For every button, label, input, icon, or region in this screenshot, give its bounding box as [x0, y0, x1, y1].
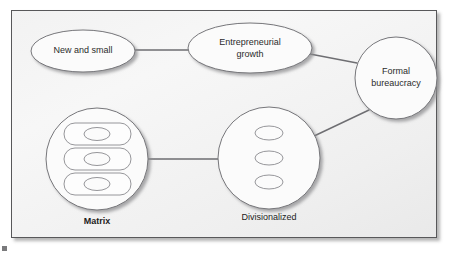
entrepreneurial-growth-ellipse — [188, 23, 312, 73]
connector-entrepreneurial-to-formal — [310, 54, 357, 63]
divisionalized-unit-ellipse-1 — [255, 126, 283, 140]
scan-artifact-speck — [2, 246, 7, 251]
formal-bureaucracy-label-line2: bureaucracy — [371, 78, 421, 88]
divisionalized-unit-ellipse-2 — [255, 151, 283, 165]
divisionalized-caption: Divisionalized — [241, 212, 296, 222]
node-new-and-small[interactable]: New and small — [31, 30, 135, 72]
new-and-small-label: New and small — [53, 45, 112, 55]
matrix-caption: Matrix — [84, 216, 111, 226]
node-matrix[interactable] — [46, 108, 148, 210]
entrepreneurial-growth-label-line1: Entrepreneurial — [219, 37, 281, 47]
node-entrepreneurial-growth[interactable]: Entrepreneurial growth — [188, 23, 312, 73]
formal-bureaucracy-label-line1: Formal — [382, 66, 410, 76]
organizational-structure-diagram: New and small Entrepreneurial growth For… — [0, 0, 465, 254]
matrix-row-ellipse-1 — [84, 128, 110, 141]
entrepreneurial-growth-label-line2: growth — [236, 49, 263, 59]
matrix-row-ellipse-3 — [84, 178, 110, 191]
node-divisionalized[interactable] — [218, 107, 320, 209]
figure-canvas: New and small Entrepreneurial growth For… — [0, 0, 465, 254]
node-formal-bureaucracy[interactable]: Formal bureaucracy — [355, 37, 437, 119]
matrix-row-ellipse-2 — [84, 153, 110, 166]
connector-formal-to-divisionalized — [312, 110, 369, 137]
divisionalized-unit-ellipse-3 — [255, 175, 283, 189]
